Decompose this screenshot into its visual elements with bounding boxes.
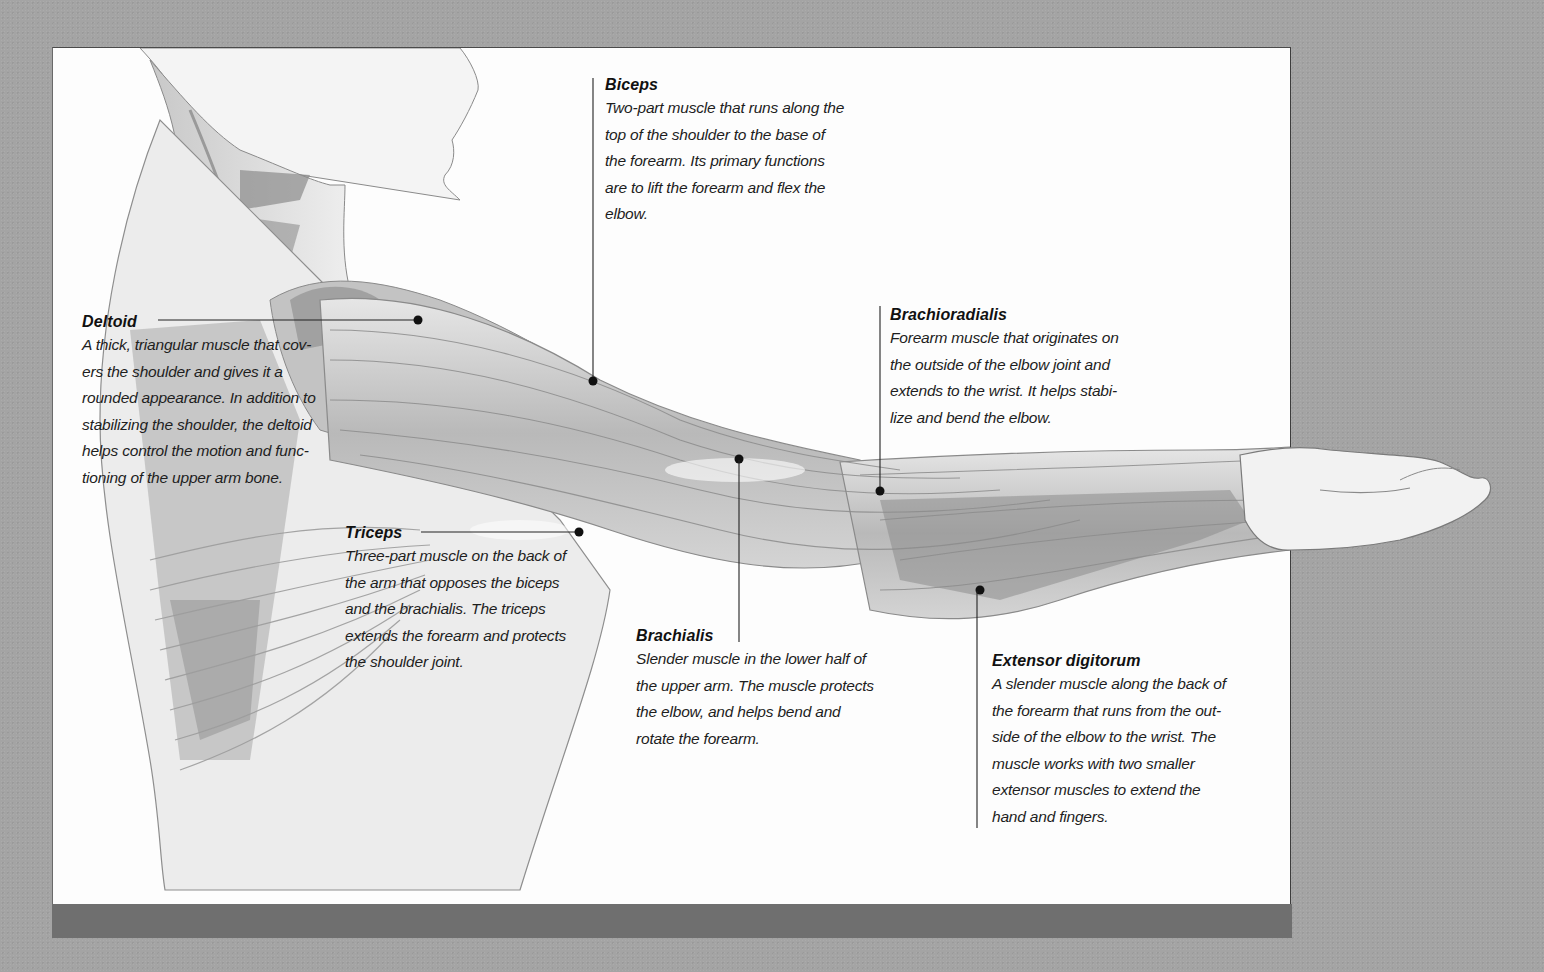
label-title: Triceps	[345, 523, 566, 543]
label-brachialis: Brachialis Slender muscle in the lower h…	[636, 626, 874, 752]
label-triceps: Triceps Three-part muscle on the back of…	[345, 523, 566, 676]
label-brachioradialis: Brachioradialis Forearm muscle that orig…	[890, 305, 1119, 431]
label-description: A thick, triangular muscle that cov- ers…	[82, 332, 316, 491]
label-title: Brachialis	[636, 626, 874, 646]
label-biceps: Biceps Two-part muscle that runs along t…	[605, 75, 844, 228]
label-description: Two-part muscle that runs along the top …	[605, 95, 844, 228]
label-description: Forearm muscle that originates on the ou…	[890, 325, 1119, 431]
label-extensor-digitorum: Extensor digitorum A slender muscle alon…	[992, 651, 1226, 830]
label-title: Biceps	[605, 75, 844, 95]
label-title: Extensor digitorum	[992, 651, 1226, 671]
label-deltoid: Deltoid A thick, triangular muscle that …	[82, 312, 316, 491]
hand-figure	[1240, 448, 1490, 551]
label-description: Slender muscle in the lower half of the …	[636, 646, 874, 752]
label-title: Brachioradialis	[890, 305, 1119, 325]
label-title: Deltoid	[82, 312, 316, 332]
label-description: Three-part muscle on the back of the arm…	[345, 543, 566, 676]
label-description: A slender muscle along the back of the f…	[992, 671, 1226, 830]
